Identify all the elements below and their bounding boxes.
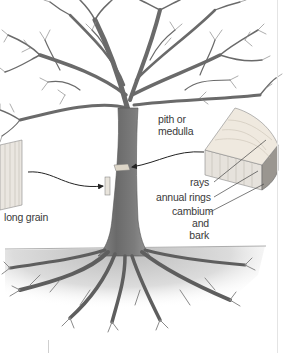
label-pith-line1: pith or [158, 113, 193, 125]
cross-section-wedge [205, 108, 278, 190]
tree-trunk [98, 108, 150, 256]
label-long-grain: long grain [4, 211, 48, 223]
long-grain-arrow [28, 172, 103, 187]
label-cambium-line2: and bark [172, 217, 209, 241]
cross-section-cut [114, 164, 130, 171]
long-grain-board [0, 140, 22, 210]
label-pith: pith or medulla [158, 113, 193, 137]
cambium-leader [210, 184, 264, 212]
page-edge-rule [277, 0, 278, 353]
tree-illustration [0, 0, 284, 353]
label-annual-rings: annual rings [156, 191, 211, 203]
long-grain-cut [105, 177, 110, 195]
label-cambium-line1: cambium [172, 205, 209, 217]
bottom-tick-mark [48, 340, 49, 353]
cross-section-arrow [132, 152, 204, 167]
tree-diagram: pith or medulla rays annual rings cambiu… [0, 0, 284, 353]
label-cambium: cambium and bark [172, 205, 209, 241]
label-rays: rays [190, 176, 209, 188]
label-pith-line2: medulla [158, 125, 193, 137]
